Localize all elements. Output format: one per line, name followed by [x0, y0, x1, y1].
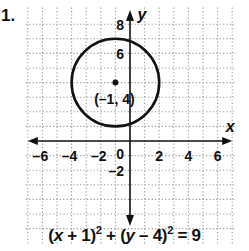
y-axis-up-arrow-icon — [126, 10, 134, 21]
eq-term-1: + 1) — [63, 226, 96, 245]
eq-var-y: y — [126, 226, 135, 245]
figure: 1. –6–4–224686–20xy(–1, 4) (x + 1)2 + (y… — [0, 0, 249, 251]
eq-term-2: – 4) — [135, 226, 168, 245]
origin-label: 0 — [116, 146, 124, 162]
eq-var-x: x — [54, 226, 63, 245]
y-tick-label: 8 — [116, 17, 124, 33]
circle-equation: (x + 1)2 + (y – 4)2 = 9 — [0, 226, 249, 246]
eq-plus: + ( — [102, 226, 126, 245]
eq-rhs: = 9 — [173, 226, 201, 245]
y-tick-label: 6 — [116, 46, 124, 62]
x-axis-right-arrow-icon — [222, 137, 232, 145]
center-point-label: (–1, 4) — [94, 91, 134, 107]
x-tick-label: 4 — [185, 148, 193, 164]
tick-labels: –6–4–224686–20xy(–1, 4) — [33, 6, 236, 179]
x-tick-label: 2 — [155, 148, 163, 164]
x-axis-left-arrow-icon — [28, 137, 38, 145]
x-tick-label: –6 — [33, 148, 49, 164]
x-tick-label: –4 — [62, 148, 78, 164]
x-tick-label: –2 — [91, 148, 107, 164]
center-point — [112, 80, 118, 86]
y-tick-label: –2 — [108, 163, 124, 179]
y-axis-down-arrow-icon — [126, 215, 134, 226]
x-tick-label: 6 — [214, 148, 222, 164]
x-axis-label: x — [225, 118, 236, 135]
coordinate-graph: –6–4–224686–20xy(–1, 4) — [0, 0, 249, 251]
y-axis-label: y — [137, 6, 148, 23]
